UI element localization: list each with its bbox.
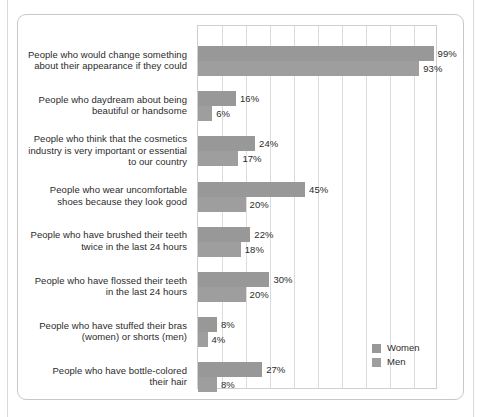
- legend-swatch-icon: [372, 358, 381, 367]
- page-rule-right: [473, 0, 474, 417]
- category-label: People who would change somethingabout t…: [15, 49, 187, 72]
- category-label-line: in the last 24 hours: [15, 286, 187, 298]
- grouped-bar-chart: People who would change somethingabout t…: [17, 14, 464, 400]
- bar-value-label: 17%: [238, 151, 261, 166]
- bar-value-label: 27%: [262, 362, 285, 377]
- category-label: People who have flossed their teethin th…: [15, 275, 187, 298]
- category-label-line: People who have brushed their teeth: [15, 229, 187, 241]
- bar-value-label: 18%: [241, 242, 264, 257]
- bar-men: [198, 151, 238, 166]
- category-label-line: beautiful or handsome: [15, 105, 187, 117]
- category-label: People who think that the cosmeticsindus…: [15, 133, 187, 168]
- legend-label: Women: [387, 343, 420, 353]
- bar-men: [198, 287, 246, 302]
- category-label-line: People who have bottle-colored: [15, 365, 187, 377]
- category-label-line: People who have stuffed their bras: [15, 320, 187, 332]
- bar-women: [198, 272, 269, 287]
- bar-value-label: 45%: [305, 182, 328, 197]
- bar-men: [198, 242, 241, 257]
- category-label-line: People who wear uncomfortable: [15, 184, 187, 196]
- bar-layer: 99%93%16%6%24%17%45%20%22%18%30%20%8%4%2…: [198, 26, 436, 388]
- bar-value-label: 16%: [236, 91, 259, 106]
- chart-screenshot: People who would change somethingabout t…: [0, 0, 489, 417]
- legend-label: Men: [387, 357, 405, 367]
- bar-women: [198, 136, 255, 151]
- bar-value-label: 6%: [212, 106, 230, 121]
- category-label: People who daydream about beingbeautiful…: [15, 94, 187, 117]
- category-label-line: People who daydream about being: [15, 94, 187, 106]
- bar-men: [198, 332, 208, 347]
- bar-value-label: 24%: [255, 136, 278, 151]
- bar-men: [198, 106, 212, 121]
- bar-value-label: 99%: [434, 46, 457, 61]
- category-label: People who have bottle-coloredtheir hair: [15, 365, 187, 388]
- category-label-line: their hair: [15, 376, 187, 388]
- category-label-line: People who think that the cosmetics: [15, 133, 187, 145]
- category-label: People who have brushed their teethtwice…: [15, 229, 187, 252]
- bar-women: [198, 91, 236, 106]
- bar-value-label: 20%: [246, 287, 269, 302]
- category-label-line: industry is very important or essential: [15, 145, 187, 157]
- bar-men: [198, 197, 246, 212]
- bar-women: [198, 362, 262, 377]
- category-label-line: shoes because they look good: [15, 196, 187, 208]
- bar-men: [198, 61, 419, 76]
- bar-value-label: 8%: [217, 317, 235, 332]
- category-label-line: (women) or shorts (men): [15, 331, 187, 343]
- category-label: People who wear uncomfortableshoes becau…: [15, 184, 187, 207]
- category-label-line: People who have flossed their teeth: [15, 275, 187, 287]
- category-label: People who have stuffed their bras(women…: [15, 320, 187, 343]
- bar-women: [198, 46, 434, 61]
- bar-men: [198, 377, 217, 392]
- bar-value-label: 93%: [419, 61, 442, 76]
- legend-item: Men: [372, 357, 452, 367]
- bar-women: [198, 182, 305, 197]
- bar-value-label: 22%: [250, 227, 273, 242]
- category-label-line: to our country: [15, 156, 187, 168]
- legend-swatch-icon: [372, 344, 381, 353]
- bar-women: [198, 227, 250, 242]
- bar-value-label: 8%: [217, 377, 235, 392]
- chart-legend: WomenMen: [372, 343, 452, 371]
- category-label-line: People who would change something: [15, 49, 187, 61]
- bar-value-label: 30%: [269, 272, 292, 287]
- category-label-column: People who would change somethingabout t…: [17, 25, 193, 389]
- legend-item: Women: [372, 343, 452, 353]
- page-rule-left: [7, 0, 8, 417]
- bar-value-label: 20%: [246, 197, 269, 212]
- category-label-line: twice in the last 24 hours: [15, 241, 187, 253]
- category-label-line: about their appearance if they could: [15, 60, 187, 72]
- bar-women: [198, 317, 217, 332]
- bar-value-label: 4%: [208, 332, 226, 347]
